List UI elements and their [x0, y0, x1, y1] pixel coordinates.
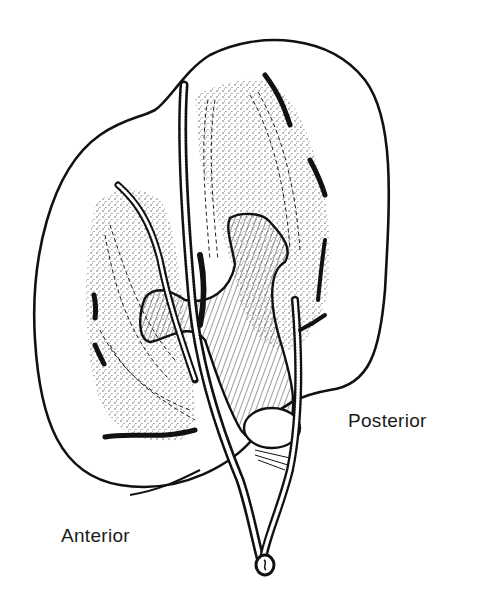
posterior-label: Posterior	[348, 410, 427, 432]
kidney-illustration	[0, 0, 479, 591]
kidney-diagram	[0, 0, 479, 591]
anterior-label: Anterior	[61, 525, 130, 547]
